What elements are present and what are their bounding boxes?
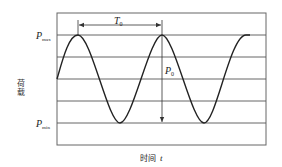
- period-label: T0: [114, 15, 123, 27]
- p-min-label: Pmin: [35, 118, 50, 130]
- x-axis-label: 时间: [140, 153, 156, 163]
- p-max-label: Pmax: [35, 30, 51, 42]
- amplitude-label: P0: [164, 65, 174, 77]
- load-time-diagram: T0 P0 Pmax Pmin 荷载 时间 t: [0, 0, 282, 167]
- x-axis-symbol: t: [160, 153, 163, 163]
- y-axis-label: 荷载: [16, 78, 25, 97]
